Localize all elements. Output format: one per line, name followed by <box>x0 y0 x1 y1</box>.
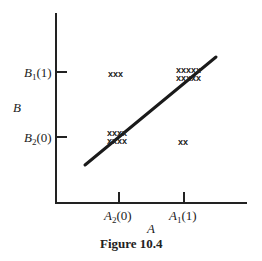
cluster-a1-b1-row2: xxxxx <box>176 73 201 83</box>
y-tick-label-b2: B2(0) <box>24 130 52 147</box>
y-tick-label-b1: B1(1) <box>24 65 52 82</box>
x-tick-label-a1: A1(1) <box>168 208 197 225</box>
x-tick-label-a2: A2(0) <box>103 208 132 225</box>
x-axis-label: A <box>146 221 155 236</box>
cluster-a1-b2: xx <box>178 137 188 147</box>
cluster-a2-b2-row2: xxxx <box>107 136 127 146</box>
y-axis-label: B <box>13 100 21 115</box>
cluster-a2-b1: xxx <box>108 69 123 79</box>
figure-caption: Figure 10.4 <box>100 236 163 251</box>
figure-canvas: B1(1) B2(0) B A2(0) A1(1) A Figure 10.4 … <box>0 0 262 261</box>
